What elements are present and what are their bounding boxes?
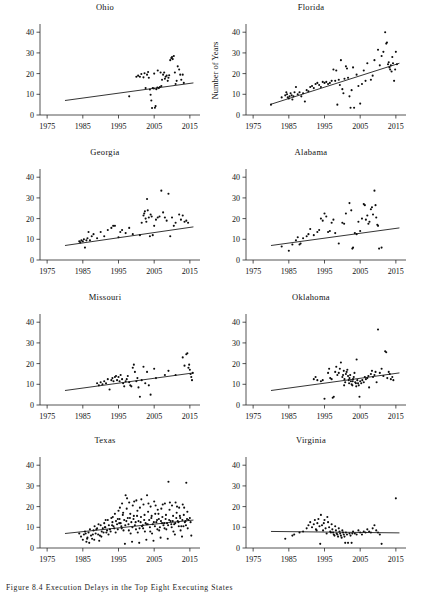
data-point: [336, 104, 338, 106]
x-tick-label: 2005: [146, 412, 162, 421]
data-point: [164, 78, 166, 80]
data-point: [190, 535, 192, 537]
data-point: [358, 396, 360, 398]
data-point: [127, 375, 129, 377]
data-point: [83, 238, 85, 240]
data-point: [322, 81, 324, 83]
data-point: [307, 233, 309, 235]
data-point: [114, 225, 116, 227]
data-point: [146, 198, 148, 200]
data-point: [388, 61, 390, 63]
data-point: [331, 80, 333, 82]
data-point: [139, 507, 141, 509]
data-point: [159, 526, 161, 528]
data-point: [160, 520, 162, 522]
data-point: [173, 55, 175, 57]
data-point: [168, 509, 170, 511]
y-tick-label: 30: [26, 49, 34, 58]
data-point: [346, 534, 348, 536]
data-point: [313, 378, 315, 380]
data-point: [80, 536, 82, 538]
data-point: [373, 374, 375, 376]
data-point: [338, 372, 340, 374]
data-point: [331, 528, 333, 530]
data-point: [160, 508, 162, 510]
data-point: [189, 369, 191, 371]
data-point: [298, 91, 300, 93]
data-point: [352, 66, 354, 68]
data-point: [323, 519, 325, 521]
data-point: [379, 64, 381, 66]
data-point: [84, 247, 86, 249]
data-point: [178, 213, 180, 215]
x-tick-label: 1985: [281, 267, 297, 276]
data-point: [115, 531, 117, 533]
data-point: [111, 377, 113, 379]
data-point: [153, 225, 155, 227]
y-tick-label: 30: [26, 194, 34, 203]
data-point: [348, 202, 350, 204]
data-point: [147, 209, 149, 211]
data-point: [140, 73, 142, 75]
data-point: [122, 514, 124, 516]
data-point: [189, 517, 191, 519]
data-point: [146, 74, 148, 76]
data-point: [145, 539, 147, 541]
data-point: [121, 229, 123, 231]
data-point: [389, 68, 391, 70]
data-point: [167, 193, 169, 195]
data-point: [157, 509, 159, 511]
data-point: [318, 525, 320, 527]
x-tick-label: 2015: [388, 412, 404, 421]
y-tick-label: 0: [236, 544, 240, 553]
x-tick-label: 2005: [146, 555, 162, 564]
data-point: [110, 530, 112, 532]
data-point: [115, 520, 117, 522]
data-point: [150, 517, 152, 519]
data-point: [376, 381, 378, 383]
data-point: [169, 59, 171, 61]
data-point: [139, 396, 141, 398]
y-tick-label: 20: [232, 503, 240, 512]
data-point: [145, 221, 147, 223]
data-point: [128, 529, 130, 531]
data-point: [144, 72, 146, 74]
data-point: [343, 534, 345, 536]
y-tick-label: 40: [232, 28, 240, 37]
data-point: [297, 236, 299, 238]
data-point: [164, 217, 166, 219]
data-point: [175, 501, 177, 503]
x-tick-label: 1995: [111, 122, 127, 131]
data-point: [139, 76, 141, 78]
data-point: [125, 494, 127, 496]
data-point: [106, 529, 108, 531]
data-point: [120, 525, 122, 527]
data-point: [107, 519, 109, 521]
data-point: [149, 526, 151, 528]
data-point: [326, 516, 328, 518]
data-point: [311, 85, 313, 87]
data-point: [154, 525, 156, 527]
data-point: [183, 514, 185, 516]
x-tick-label: 1985: [281, 555, 297, 564]
x-tick-label: 1985: [75, 267, 91, 276]
data-point: [186, 518, 188, 520]
data-point: [148, 384, 150, 386]
x-tick-label: 1995: [111, 267, 127, 276]
data-point: [155, 521, 157, 523]
data-point: [129, 517, 131, 519]
data-point: [335, 69, 337, 71]
data-point: [175, 517, 177, 519]
data-point: [372, 527, 374, 529]
data-point: [333, 396, 335, 398]
data-point: [123, 385, 125, 387]
data-point: [291, 535, 293, 537]
data-point: [381, 368, 383, 370]
data-point: [185, 220, 187, 222]
data-point: [343, 223, 345, 225]
data-point: [190, 376, 192, 378]
data-point: [162, 74, 164, 76]
data-point: [157, 217, 159, 219]
x-tick-label: 1975: [245, 412, 261, 421]
data-point: [102, 531, 104, 533]
